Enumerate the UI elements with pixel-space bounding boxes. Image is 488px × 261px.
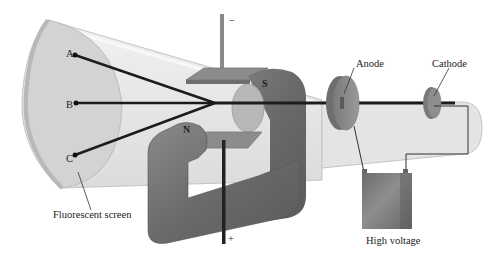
cathode-label: Cathode: [432, 58, 467, 69]
point-c-dot: [73, 153, 78, 158]
point-c-label: C: [66, 153, 73, 164]
point-b-label: B: [66, 99, 73, 110]
cathode-disc: [423, 87, 441, 119]
anode-disc: [326, 76, 359, 130]
cathode-ray-tube-diagram: A B C S N − + Anode Cathode Fluorescent …: [0, 0, 488, 261]
positive-terminal-label: +: [228, 233, 234, 244]
negative-terminal-label: −: [229, 15, 235, 26]
fluorescent-screen-label: Fluorescent screen: [53, 209, 132, 220]
high-voltage-label: High voltage: [366, 235, 421, 246]
high-voltage-battery: [362, 169, 412, 229]
positive-rod: [222, 140, 226, 244]
point-a-label: A: [66, 48, 74, 59]
magnet-south-label: S: [262, 78, 268, 89]
point-b-dot: [74, 101, 79, 106]
magnet-north-label: N: [183, 124, 191, 135]
anode-label: Anode: [356, 58, 384, 69]
